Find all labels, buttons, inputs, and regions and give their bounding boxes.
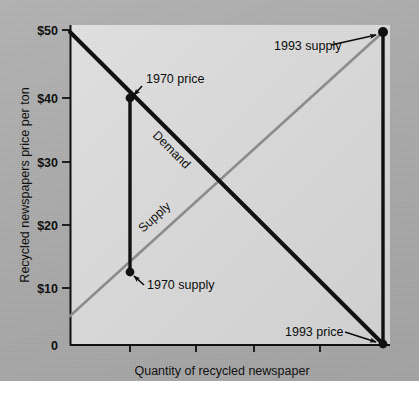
annotation-1993-supply: 1993 supply: [274, 35, 376, 53]
x-axis-title: Quantity of recycled newspaper: [134, 364, 309, 378]
annotation-1970-supply-label: 1970 supply: [147, 278, 215, 292]
annotation-1970-price-label: 1970 price: [146, 72, 204, 86]
annotation-1993-price-label: 1993 price: [285, 325, 343, 339]
supply-curve-label: Supply: [136, 199, 174, 236]
annotation-1970-supply: 1970 supply: [134, 276, 215, 292]
annotation-1993-supply-label: 1993 supply: [274, 39, 342, 53]
annotation-1993-price: 1993 price: [285, 325, 376, 342]
marker-1993-price: [379, 340, 388, 349]
axis-lines: [70, 25, 390, 346]
marker-1970-price: [126, 94, 135, 103]
y-axis-title: Recycled newspapers price per ton: [18, 87, 32, 282]
y-tick-label-50: $50: [37, 24, 58, 38]
annotation-1970-supply-arrow: [134, 276, 144, 285]
y-tick-label-10: $10: [37, 282, 58, 296]
y-tick-label-20: $20: [37, 219, 58, 233]
y-axis-tick-labels: $50 $40 $30 $20 $10 0: [37, 24, 58, 353]
supply-curve: [70, 32, 383, 316]
marker-1993-supply: [378, 27, 388, 37]
annotation-1970-price: 1970 price: [134, 72, 204, 95]
y-tick-label-30: $30: [37, 156, 58, 170]
figure-bottom-strip: [0, 381, 419, 405]
chart-figure: $50 $40 $30 $20 $10 0 Demand Supply 1970…: [0, 0, 419, 405]
y-tick-label-40: $40: [37, 92, 58, 106]
chart-canvas: $50 $40 $30 $20 $10 0 Demand Supply 1970…: [0, 0, 419, 405]
x-axis-ticks: [130, 345, 320, 352]
marker-1970-supply: [126, 268, 135, 277]
demand-curve: [70, 32, 383, 344]
y-axis-ticks: [62, 30, 70, 288]
annotation-1970-price-arrow: [134, 86, 142, 95]
y-tick-label-0: 0: [51, 339, 58, 353]
